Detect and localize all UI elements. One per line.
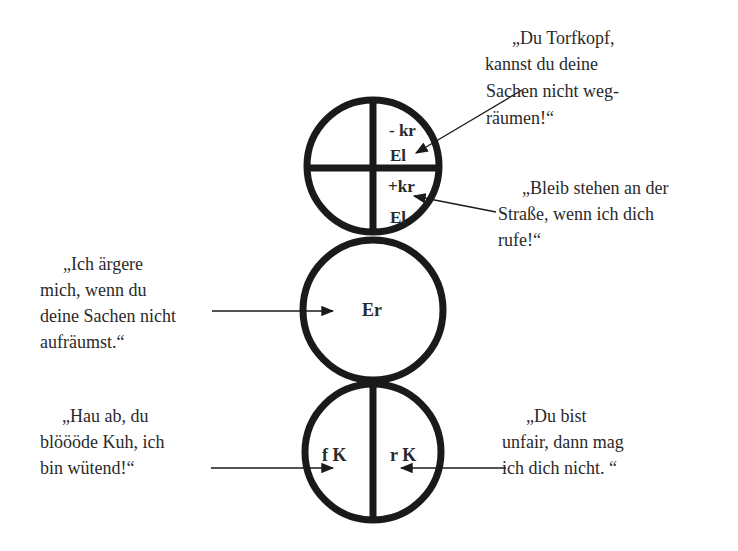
- label-el-top: El: [390, 145, 406, 167]
- label-rk: r K: [390, 444, 416, 466]
- label-minus-kr: - kr: [389, 120, 416, 142]
- label-fk: f K: [322, 444, 347, 466]
- label-el-bottom: El: [390, 207, 406, 229]
- label-plus-kr: +kr: [388, 176, 415, 198]
- parent-ego-circle: [307, 100, 439, 232]
- label-er: Er: [362, 299, 382, 321]
